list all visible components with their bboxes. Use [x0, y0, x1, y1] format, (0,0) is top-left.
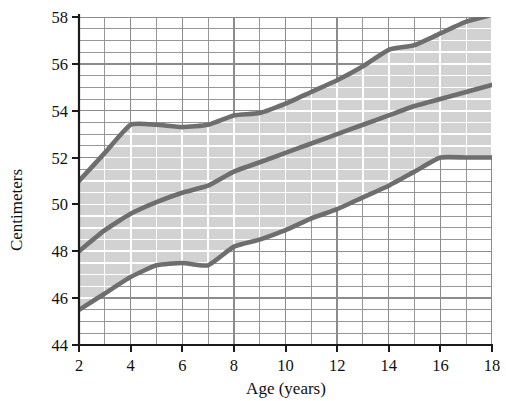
- growth-chart-figure: 4446485052545658 24681012141618 Age (yea…: [0, 0, 506, 401]
- y-tick-label: 50: [52, 195, 69, 214]
- y-tick-label: 46: [52, 289, 69, 308]
- y-tick-label: 48: [52, 242, 69, 261]
- x-tick-label: 8: [230, 356, 238, 375]
- y-axis-tick-labels: 4446485052545658: [52, 8, 69, 355]
- chart-canvas: 4446485052545658 24681012141618 Age (yea…: [0, 0, 506, 401]
- y-tick-label: 56: [52, 55, 69, 74]
- y-tick-label: 44: [52, 336, 69, 355]
- x-tick-label: 10: [277, 356, 294, 375]
- x-tick-label: 2: [75, 356, 83, 375]
- y-tick-label: 58: [52, 8, 69, 27]
- x-axis-title: Age (years): [246, 379, 326, 398]
- y-tick-label: 54: [52, 102, 69, 121]
- x-tick-label: 18: [484, 356, 501, 375]
- y-axis-title: Centimeters: [7, 169, 26, 251]
- y-tick-label: 52: [52, 149, 69, 168]
- x-axis-tick-labels: 24681012141618: [75, 356, 500, 375]
- x-tick-label: 12: [329, 356, 346, 375]
- x-tick-label: 6: [178, 356, 186, 375]
- x-tick-label: 4: [127, 356, 135, 375]
- x-tick-label: 16: [432, 356, 449, 375]
- x-tick-label: 14: [381, 356, 398, 375]
